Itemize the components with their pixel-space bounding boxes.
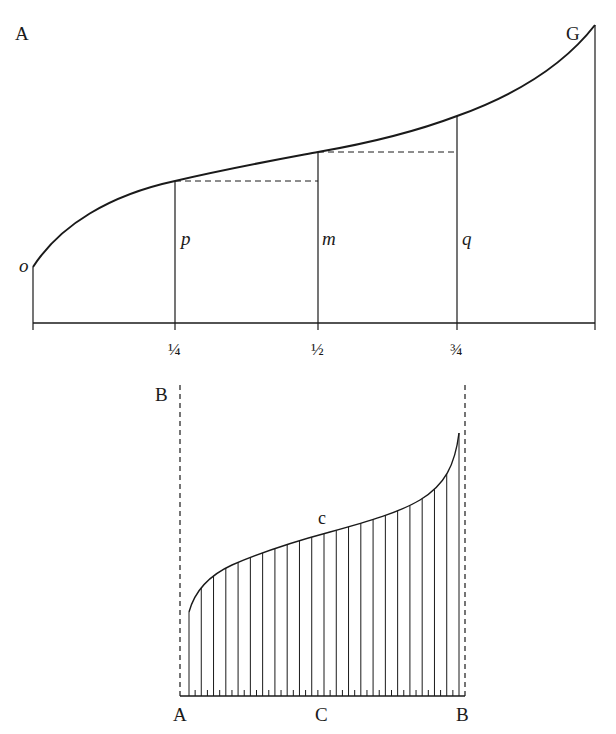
top-ordinates [33,25,595,323]
tick-label-three-quarter: ¾ [450,340,463,359]
top-curve [33,25,595,267]
tick-label-quarter: ¼ [168,340,181,359]
label-o: o [19,255,29,276]
label-B-bottom: B [456,704,469,725]
label-A-top: A [15,23,29,44]
top-axis-ticks [33,323,595,330]
label-B-top: B [155,384,168,405]
top-figure: A G o p m q ¼ ½ ¾ [15,23,595,359]
tick-label-half: ½ [311,340,324,359]
top-dashed-lines [175,152,457,181]
label-C: C [315,704,328,725]
diagram-canvas: A G o p m q ¼ ½ ¾ B c A C B [0,0,616,734]
label-p: p [179,228,191,249]
bottom-hatching [189,433,459,696]
bottom-figure: B c A C B [155,384,469,725]
label-m: m [322,228,336,249]
label-G: G [566,23,580,44]
label-A-bottom: A [173,704,187,725]
label-c: c [318,508,326,528]
label-q: q [462,228,472,249]
